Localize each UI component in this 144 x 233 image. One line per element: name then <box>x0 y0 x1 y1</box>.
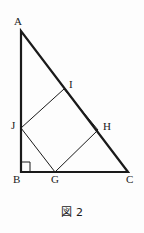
vertex-label-b: B <box>13 174 20 185</box>
vertex-label-h: H <box>103 121 111 132</box>
vertex-label-g: G <box>51 174 59 185</box>
vertex-label-j: J <box>11 120 15 131</box>
figure-caption: 図 2 <box>0 203 144 219</box>
geometry-canvas <box>0 0 144 233</box>
vertex-label-i: I <box>69 79 73 90</box>
vertex-label-c: C <box>126 174 133 185</box>
square-jihg-outline <box>21 89 98 172</box>
geometry-figure: A B C G H I J 図 2 <box>0 0 144 233</box>
right-angle-marker-icon <box>21 162 30 172</box>
vertex-label-a: A <box>14 16 22 27</box>
